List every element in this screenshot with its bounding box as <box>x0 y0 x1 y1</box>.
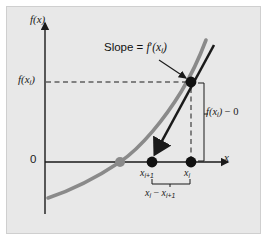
rise-annotation-operator: − 0 <box>222 106 238 117</box>
slope-annotation-close: ) <box>163 41 167 53</box>
slope-annotation-prefix: Slope = <box>104 41 147 53</box>
slope-annotation: Slope = f′(xi) <box>104 42 167 55</box>
x-tick-label-x-i-plus-1: xi+1 <box>140 168 154 180</box>
y-axis-label: f(x) <box>30 14 45 25</box>
y-tick-label-head: f(x <box>18 73 30 85</box>
y-tick-label-fxi: f(xi) <box>18 74 35 87</box>
run-annotation: xi − xi+1 <box>145 188 175 200</box>
function-curve <box>48 40 206 198</box>
x-tick-label-x-i-subscript: i <box>188 172 190 179</box>
y-tick-label-tail: ) <box>31 73 35 85</box>
x-tick-label-x-i-plus-1-subscript: i+1 <box>144 172 153 179</box>
rise-annotation-open: (x <box>209 106 217 117</box>
rise-annotation: f(xi) − 0 <box>206 106 239 119</box>
x-i-point-marker <box>186 157 197 168</box>
slope-annotation-open: (x <box>152 41 161 53</box>
tangency-point-marker <box>186 77 197 88</box>
x-axis-label: x <box>224 152 229 163</box>
x-i-plus-1-point-marker <box>147 157 158 168</box>
x-tick-label-x-i: xi <box>184 168 190 180</box>
rise-bracket <box>198 83 204 161</box>
run-annotation-operator: − <box>151 187 162 198</box>
plot-graphics <box>0 0 267 240</box>
root-point-marker <box>115 157 125 167</box>
origin-label-zero: 0 <box>30 154 36 166</box>
figure-container: f(x) Slope = f′(xi) f(xi) 0 x f(xi) − 0 … <box>0 0 267 240</box>
run-annotation-second-subscript: i+1 <box>166 192 175 199</box>
run-brace <box>152 179 190 187</box>
tangent-line <box>156 45 214 152</box>
slope-callout-leader <box>159 60 186 78</box>
